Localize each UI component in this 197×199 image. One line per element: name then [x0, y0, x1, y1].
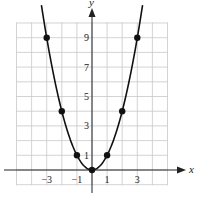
parabola-chart: x y −3−11313579 — [0, 0, 197, 199]
x-axis-arrow-icon — [177, 167, 186, 174]
data-point — [59, 108, 65, 114]
x-axis-label: x — [188, 163, 194, 175]
y-axis-arrow-icon — [89, 8, 96, 17]
y-tick-label: 5 — [84, 91, 89, 102]
x-tick-label: 3 — [135, 174, 140, 185]
y-tick-label: 1 — [84, 150, 89, 161]
data-point — [44, 35, 50, 41]
x-tick-label: −3 — [41, 174, 52, 185]
x-tick-label: −1 — [72, 174, 83, 185]
y-tick-label: 3 — [84, 120, 89, 131]
y-axis-label: y — [88, 0, 94, 8]
y-tick-label: 7 — [84, 62, 89, 73]
data-point — [119, 108, 125, 114]
data-point — [89, 167, 95, 173]
data-point — [134, 35, 140, 41]
x-tick-label: 1 — [105, 174, 110, 185]
data-point — [74, 152, 80, 158]
data-point — [104, 152, 110, 158]
y-tick-label: 9 — [84, 32, 89, 43]
tick-labels: −3−11313579 — [41, 32, 139, 185]
